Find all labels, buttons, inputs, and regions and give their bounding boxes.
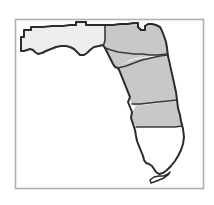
florida-map-figure	[0, 0, 214, 205]
florida-map-svg	[0, 0, 214, 205]
